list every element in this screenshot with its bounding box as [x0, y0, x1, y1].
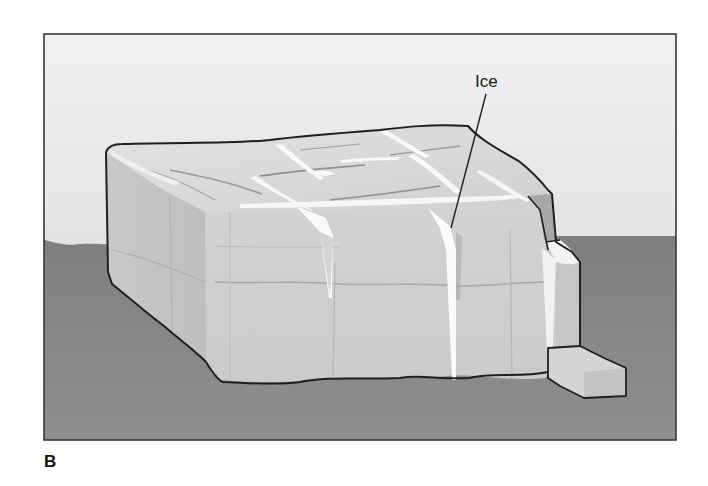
rock-illustration	[0, 0, 708, 486]
ice-callout-label: Ice	[475, 72, 498, 92]
panel-label: B	[44, 452, 56, 472]
figure-panel: Ice B	[0, 0, 708, 486]
